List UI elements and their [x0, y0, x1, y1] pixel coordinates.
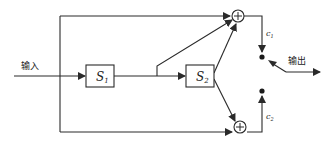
input-label: 输入 — [21, 60, 39, 71]
c1-line — [244, 16, 262, 52]
adder-bottom — [234, 121, 246, 133]
block-s1: S1 — [86, 65, 114, 87]
block-s2: S2 — [186, 65, 214, 87]
contact-c2[interactable] — [259, 88, 264, 93]
c2-label: c2 — [266, 112, 274, 122]
adder-top — [232, 10, 244, 22]
output-label: 输出 — [288, 55, 306, 66]
s2-to-bottom-adder — [214, 79, 235, 121]
c1-label: c1 — [266, 29, 274, 39]
block-diagram: S1 S2 输入 输出 c1 c2 — [0, 0, 331, 143]
c2-line — [247, 96, 262, 132]
s2-to-top-adder — [214, 24, 236, 73]
contact-c1[interactable] — [259, 54, 264, 59]
